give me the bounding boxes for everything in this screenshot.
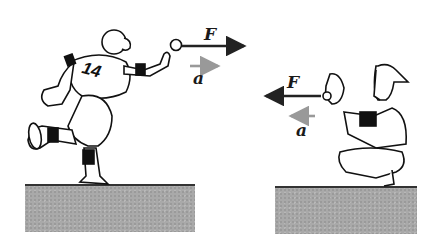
acceleration-label-left: a	[193, 68, 204, 88]
catcher-figure	[323, 65, 408, 186]
figure-drawings: 14	[0, 0, 439, 252]
pitcher-figure: 14	[27, 30, 182, 184]
force-label-right: F	[287, 72, 299, 92]
force-label-left: F	[204, 24, 216, 44]
diagram: 14 F a F a	[0, 0, 439, 252]
acceleration-label-right: a	[296, 120, 307, 140]
